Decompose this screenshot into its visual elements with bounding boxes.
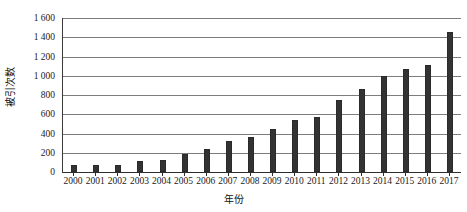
x-axis-tick-label: 2007 <box>218 176 237 186</box>
y-axis-tick-label: 400 <box>41 129 55 139</box>
x-axis-tick-label: 2017 <box>439 176 458 186</box>
x-axis-tick-label: 2001 <box>86 176 105 186</box>
y-axis-tick-label: 1 000 <box>34 71 55 81</box>
bar <box>226 141 232 172</box>
bars-group <box>63 18 461 172</box>
x-axis-tick-label: 2002 <box>108 176 127 186</box>
x-axis-tick-label: 2004 <box>152 176 171 186</box>
bar <box>160 160 166 172</box>
x-axis-tick-label: 2008 <box>240 176 259 186</box>
x-axis-tick <box>361 172 362 176</box>
x-axis-tick-label: 2003 <box>130 176 149 186</box>
y-axis-tick-label: 0 <box>50 167 55 177</box>
bar <box>359 89 365 172</box>
x-axis-tick <box>95 172 96 176</box>
y-axis-tick-label: 1 400 <box>34 32 55 42</box>
y-axis-tick-label: 200 <box>41 148 55 158</box>
x-axis-tick-label: 2016 <box>417 176 436 186</box>
x-axis-tick-label: 2013 <box>351 176 370 186</box>
x-axis-tick-label: 2014 <box>373 176 392 186</box>
x-axis-tick-labels: 2000200120022003200420052006200720082009… <box>62 176 460 190</box>
x-axis-title: 年份 <box>0 191 467 206</box>
x-axis-tick-label: 2009 <box>263 176 282 186</box>
plot-area <box>62 18 461 173</box>
x-axis-tick-label: 2010 <box>285 176 304 186</box>
y-axis-tick-label: 600 <box>41 109 55 119</box>
bar <box>71 165 77 172</box>
x-axis-tick <box>427 172 428 176</box>
y-axis-tick-label: 1 200 <box>34 52 55 62</box>
y-axis-tick-label: 800 <box>41 90 55 100</box>
x-axis-tick <box>449 172 450 176</box>
x-axis-tick <box>117 172 118 176</box>
y-axis-title: 被引次数 <box>0 0 18 172</box>
x-axis-tick <box>184 172 185 176</box>
x-axis-tick-label: 2000 <box>64 176 83 186</box>
y-axis-title-label: 被引次数 <box>2 66 17 106</box>
bar <box>270 129 276 172</box>
bar <box>314 117 320 172</box>
x-axis-tick-label: 2011 <box>307 176 326 186</box>
bar <box>137 161 143 172</box>
x-axis-tick <box>162 172 163 176</box>
x-axis-tick <box>250 172 251 176</box>
x-axis-tick <box>294 172 295 176</box>
y-axis-tick-labels: 02004006008001 0001 2001 4001 600 <box>18 18 59 172</box>
bar <box>115 165 121 172</box>
bar <box>403 69 409 172</box>
x-axis-tick-label: 2012 <box>329 176 348 186</box>
bar <box>336 100 342 172</box>
citation-count-bar-chart: 被引次数 02004006008001 0001 2001 4001 600 2… <box>0 0 467 212</box>
bar <box>292 120 298 172</box>
bar <box>248 137 254 172</box>
x-axis-tick <box>338 172 339 176</box>
bar <box>204 149 210 172</box>
x-axis-tick-label: 2005 <box>174 176 193 186</box>
x-axis-tick <box>316 172 317 176</box>
bar <box>93 165 99 172</box>
x-axis-tick <box>272 172 273 176</box>
bar <box>381 76 387 172</box>
bar <box>182 154 188 172</box>
x-axis-tick-label: 2015 <box>395 176 414 186</box>
x-axis-tick <box>405 172 406 176</box>
x-axis-tick <box>206 172 207 176</box>
x-axis-tick <box>228 172 229 176</box>
bar <box>425 65 431 172</box>
x-axis-tick <box>139 172 140 176</box>
x-axis-tick <box>383 172 384 176</box>
x-axis-tick <box>73 172 74 176</box>
bar <box>447 32 453 172</box>
y-axis-tick-label: 1 600 <box>34 13 55 23</box>
x-axis-tick-label: 2006 <box>196 176 215 186</box>
